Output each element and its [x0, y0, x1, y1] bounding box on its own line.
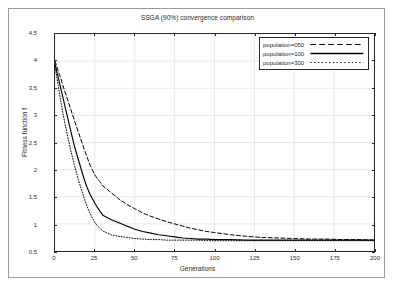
y-tick-mark: [54, 197, 57, 198]
y-tick-mark: [372, 197, 375, 198]
series-line: [55, 61, 374, 240]
x-tick-mark: [255, 33, 256, 36]
x-tick-mark: [215, 33, 216, 36]
y-tick-label: 4: [11, 57, 37, 63]
legend-label: population=300: [263, 60, 304, 66]
x-axis-title: Generations: [9, 265, 386, 272]
y-tick-label: 0.5: [11, 249, 37, 255]
y-tick-mark: [54, 225, 57, 226]
x-tick-mark: [54, 33, 55, 36]
x-tick-mark: [375, 249, 376, 252]
y-tick-mark: [372, 225, 375, 226]
y-tick-mark: [54, 143, 57, 144]
y-tick-mark: [54, 252, 57, 253]
chart-legend: population=050population=100population=3…: [259, 37, 369, 70]
legend-item: population=300: [263, 58, 365, 67]
y-tick-mark: [54, 60, 57, 61]
legend-label: population=050: [263, 42, 304, 48]
y-tick-mark: [372, 60, 375, 61]
y-tick-mark: [54, 115, 57, 116]
x-tick-label: 125: [240, 255, 270, 261]
x-tick-label: 100: [200, 255, 230, 261]
legend-line-sample: [309, 59, 365, 66]
x-tick-mark: [375, 33, 376, 36]
y-tick-label: 1.5: [11, 194, 37, 200]
x-tick-mark: [255, 249, 256, 252]
figure-page: SSGA (90%) convergence comparison 0.511.…: [0, 0, 394, 297]
x-tick-label: 150: [280, 255, 310, 261]
x-tick-mark: [94, 249, 95, 252]
y-tick-mark: [372, 143, 375, 144]
series-line: [55, 64, 374, 240]
x-tick-mark: [174, 249, 175, 252]
convergence-chart: SSGA (90%) convergence comparison 0.511.…: [9, 9, 386, 279]
legend-item: population=050: [263, 40, 365, 49]
chart-title: SSGA (90%) convergence comparison: [9, 14, 386, 21]
y-tick-mark: [372, 115, 375, 116]
legend-line-sample: [309, 41, 365, 48]
x-tick-mark: [94, 33, 95, 36]
x-tick-label: 0: [39, 255, 69, 261]
y-tick-mark: [372, 88, 375, 89]
x-tick-label: 50: [119, 255, 149, 261]
y-tick-mark: [54, 170, 57, 171]
x-tick-mark: [134, 249, 135, 252]
x-tick-mark: [295, 249, 296, 252]
x-tick-mark: [335, 33, 336, 36]
legend-label: population=100: [263, 51, 304, 57]
x-tick-label: 75: [159, 255, 189, 261]
x-tick-label: 25: [79, 255, 109, 261]
y-tick-mark: [372, 252, 375, 253]
y-tick-mark: [54, 88, 57, 89]
legend-line-sample: [309, 50, 365, 57]
x-tick-mark: [54, 249, 55, 252]
x-tick-mark: [295, 33, 296, 36]
y-axis-title: Fitness function f: [21, 78, 28, 188]
x-tick-label: 200: [360, 255, 390, 261]
y-tick-label: 1: [11, 221, 37, 227]
y-tick-mark: [372, 170, 375, 171]
x-tick-label: 175: [320, 255, 350, 261]
x-tick-mark: [134, 33, 135, 36]
legend-item: population=100: [263, 49, 365, 58]
x-tick-mark: [215, 249, 216, 252]
x-tick-mark: [335, 249, 336, 252]
figure-border: SSGA (90%) convergence comparison 0.511.…: [8, 8, 385, 278]
x-tick-mark: [174, 33, 175, 36]
y-tick-label: 4.5: [11, 30, 37, 36]
